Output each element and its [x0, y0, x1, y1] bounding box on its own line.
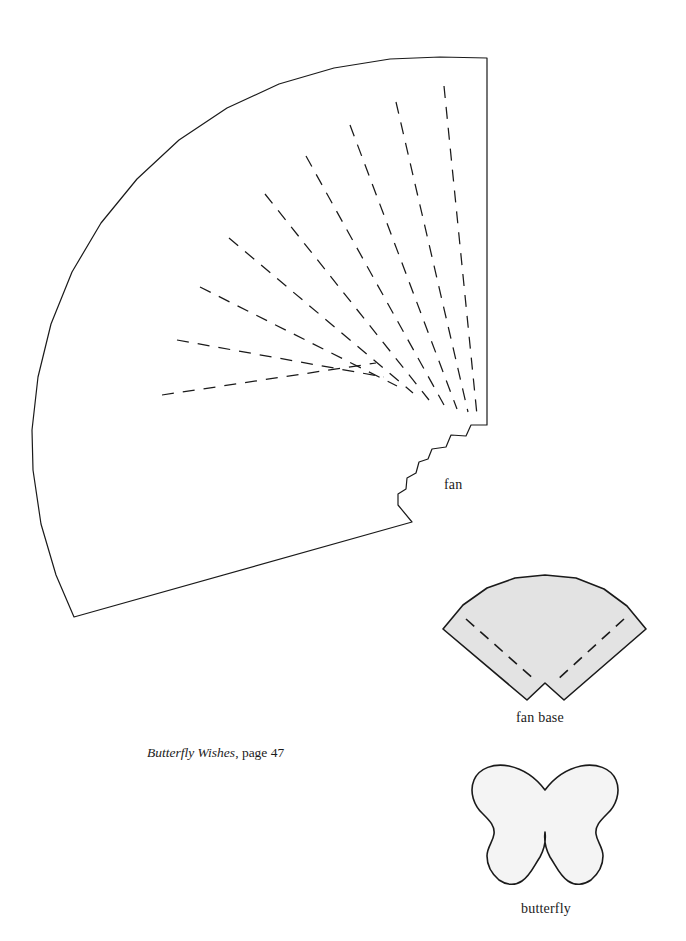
butterfly-outline [472, 765, 618, 884]
fan-base-outline [443, 575, 646, 700]
pattern-sheet-page: fan fan base butterfly Butterfly Wishes,… [0, 0, 686, 941]
fan-base-shape [443, 575, 646, 700]
fan-label: fan [444, 477, 462, 493]
fan-shape [32, 57, 487, 617]
fan-outline [32, 57, 487, 617]
pattern-illustrations [0, 0, 686, 941]
caption-page-reference: , page 47 [235, 745, 284, 760]
caption-title: Butterfly Wishes [147, 745, 235, 760]
project-caption: Butterfly Wishes, page 47 [147, 745, 284, 761]
butterfly-label: butterfly [521, 901, 571, 917]
butterfly-shape [472, 765, 618, 884]
fan-base-label: fan base [516, 710, 564, 726]
